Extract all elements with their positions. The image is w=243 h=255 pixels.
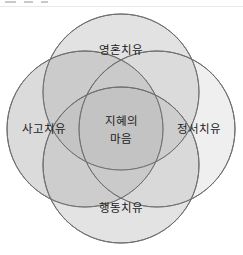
label-center-line2: 마음: [110, 132, 132, 146]
label-bottom-circle: 행동치유: [99, 201, 143, 215]
venn-figure-root: 영혼치유 사고치유 정서치유 행동치유 지혜의 마음: [0, 0, 243, 255]
label-top-circle: 영혼치유: [99, 43, 143, 57]
toolbar-chip-2: [24, 1, 33, 3]
label-left-circle: 사고치유: [22, 122, 66, 136]
circle-bottom: [43, 87, 199, 243]
label-right-circle: 정서치유: [177, 122, 221, 136]
venn-diagram: 영혼치유 사고치유 정서치유 행동치유 지혜의 마음: [0, 7, 243, 255]
venn-svg-canvas: 영혼치유 사고치유 정서치유 행동치유 지혜의 마음: [0, 7, 243, 255]
label-center-line1: 지혜의: [105, 114, 138, 128]
clipped-toolbar-strip: [0, 0, 243, 7]
toolbar-chip-3: [41, 1, 48, 3]
toolbar-chip-1: [5, 1, 16, 3]
